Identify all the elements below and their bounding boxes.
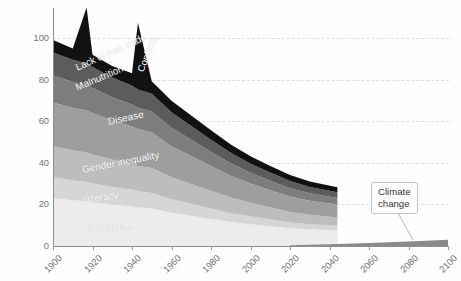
y-axis-line <box>53 8 54 247</box>
y-tick-label-20: 20 <box>15 199 49 209</box>
chart-figure: Cost of problem, % global GDP 1008060402… <box>0 0 461 281</box>
x-tick-mark-1980 <box>211 246 212 250</box>
x-tick-mark-1920 <box>93 246 94 250</box>
climate-change-callout: Climate change <box>371 182 418 214</box>
x-tick-mark-2020 <box>290 246 291 250</box>
callout-line-1: Climate <box>378 186 411 198</box>
x-tick-mark-2080 <box>409 246 410 250</box>
y-tick-label-40: 40 <box>15 158 49 168</box>
y-tick-label-60: 60 <box>15 116 49 126</box>
y-tick-label-0: 0 <box>15 241 49 251</box>
y-tick-label-100: 100 <box>15 33 49 43</box>
x-tick-mark-2040 <box>330 246 331 250</box>
series-label-air-pollution: Air pollution <box>82 220 135 233</box>
stacked-area-series <box>0 0 461 281</box>
x-tick-mark-1960 <box>172 246 173 250</box>
y-tick-label-80: 80 <box>15 75 49 85</box>
callout-line-2: change <box>378 198 411 210</box>
y-axis-tick-labels: 100806040200 <box>8 0 49 281</box>
x-tick-mark-2100 <box>448 246 449 250</box>
x-tick-mark-1900 <box>53 246 54 250</box>
x-tick-mark-2000 <box>251 246 252 250</box>
x-tick-mark-2060 <box>369 246 370 250</box>
x-tick-mark-1940 <box>132 246 133 250</box>
